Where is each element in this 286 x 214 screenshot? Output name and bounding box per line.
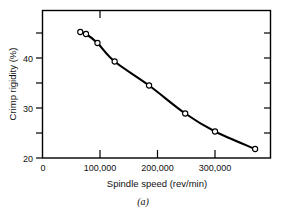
data-point xyxy=(212,129,217,134)
y-tick-label-40: 40 xyxy=(23,54,33,64)
data-point xyxy=(95,40,100,45)
data-point xyxy=(78,29,83,34)
data-curve xyxy=(80,32,255,149)
figure-panel: 20 30 40 0 100,000 200,000 300,000 Spind… xyxy=(0,0,286,214)
x-tick-label-200000: 200,000 xyxy=(141,163,174,173)
y-axis-ticks xyxy=(36,33,43,158)
data-point xyxy=(112,59,117,64)
x-tick-label-0: 0 xyxy=(40,163,45,173)
y-axis-title: Crimp rigidity (%) xyxy=(7,48,18,121)
data-point xyxy=(83,31,88,36)
figure-caption: (a) xyxy=(137,196,149,208)
y-tick-label-20: 20 xyxy=(23,154,33,164)
data-point xyxy=(253,146,258,151)
chart-canvas: 20 30 40 0 100,000 200,000 300,000 Spind… xyxy=(0,0,286,214)
x-tick-label-100000: 100,000 xyxy=(84,163,117,173)
y-tick-label-30: 30 xyxy=(23,104,33,114)
x-axis-ticks xyxy=(100,150,215,158)
x-tick-label-300000: 300,000 xyxy=(199,163,232,173)
data-point xyxy=(146,83,151,88)
data-point-group xyxy=(78,29,258,151)
y-axis-ticks-right xyxy=(264,33,271,133)
x-axis-title: Spindle speed (rev/min) xyxy=(107,178,207,189)
data-point xyxy=(183,111,188,116)
plot-frame xyxy=(43,11,271,159)
